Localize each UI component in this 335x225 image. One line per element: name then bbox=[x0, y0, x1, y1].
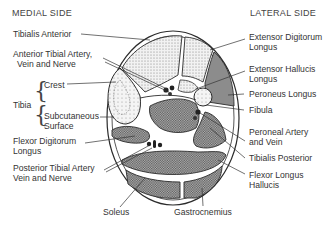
label-posterior-tibial-line2: Vein and Nerve bbox=[13, 173, 72, 183]
label-fdl-line2: Longus bbox=[13, 146, 41, 156]
label-fibula: Fibula bbox=[249, 105, 272, 115]
lateral-side-header: LATERAL SIDE bbox=[250, 8, 316, 18]
label-ehl-line2: Longus bbox=[249, 74, 277, 84]
tibia-brace-lower: { bbox=[34, 104, 48, 126]
label-subcutaneous-line1: Subcutaneous bbox=[44, 111, 99, 121]
label-fhl-line2: Hallucis bbox=[249, 180, 279, 190]
fibula-bone bbox=[194, 88, 212, 106]
label-tibialis-posterior: Tibialis Posterior bbox=[249, 153, 312, 163]
medial-side-header: MEDIAL SIDE bbox=[12, 8, 72, 18]
label-crest: Crest bbox=[44, 80, 65, 90]
label-edl-line1: Extensor Digitorum bbox=[249, 32, 322, 42]
label-peroneal-line2: and Vein bbox=[249, 137, 282, 147]
label-tibialis-anterior: Tibialis Anterior bbox=[13, 29, 71, 39]
label-posterior-tibial-line1: Posterior Tibial Artery bbox=[13, 163, 95, 173]
label-tibia: Tibia bbox=[13, 100, 31, 110]
label-anterior-tibial-line2: Vein and Nerve bbox=[17, 59, 76, 69]
label-fhl-line1: Flexor Longus bbox=[249, 170, 303, 180]
label-peroneus-longus: Peroneus Longus bbox=[249, 89, 316, 99]
label-peroneal-line1: Peroneal Artery bbox=[249, 127, 308, 137]
label-ehl-line1: Extensor Hallucis bbox=[249, 64, 315, 74]
label-edl-line2: Longus bbox=[249, 42, 277, 52]
label-anterior-tibial-line1: Anterior Tibial Artery, bbox=[13, 49, 92, 59]
label-soleus: Soleus bbox=[103, 207, 129, 217]
label-fdl-line1: Flexor Digitorum bbox=[13, 136, 76, 146]
label-gastrocnemius: Gastrocnemius bbox=[174, 207, 232, 217]
label-subcutaneous-line2: Surface bbox=[44, 121, 74, 131]
